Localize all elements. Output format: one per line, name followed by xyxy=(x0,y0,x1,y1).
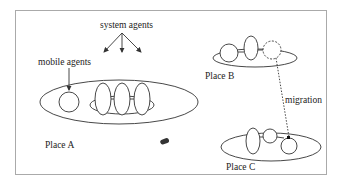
system-agent-2 xyxy=(114,83,130,115)
place-c-agent-2 xyxy=(263,129,277,143)
mobile-agents-label: mobile agents xyxy=(38,58,91,68)
place-b-label: Place B xyxy=(205,72,234,82)
place-c xyxy=(221,128,321,161)
smudge-mark xyxy=(160,137,170,145)
system-agent-1 xyxy=(95,83,111,115)
migrated-agent xyxy=(281,138,297,154)
place-a xyxy=(40,80,198,124)
mobile-agent-circle xyxy=(59,92,79,112)
place-c-agent-1 xyxy=(246,128,260,154)
place-c-label: Place C xyxy=(226,163,255,173)
system-agents-label: system agents xyxy=(100,21,153,31)
place-a-label: Place A xyxy=(45,141,74,151)
migrating-agent-origin xyxy=(263,41,281,59)
place-b-agent-1 xyxy=(220,44,238,62)
system-agent-3 xyxy=(134,83,150,115)
system-agents-arrows xyxy=(104,33,141,52)
place-b xyxy=(213,36,297,67)
migration-endpoint xyxy=(287,136,290,139)
migration-label: migration xyxy=(285,96,322,106)
place-b-agent-2 xyxy=(244,36,258,60)
